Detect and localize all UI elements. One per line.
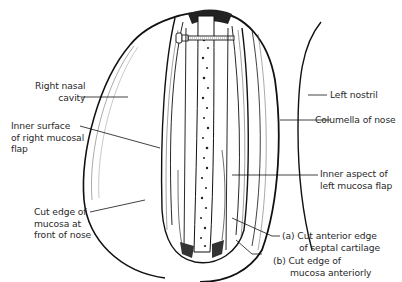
label-left-nostril: Left nostril <box>330 89 378 101</box>
label-inner-surface-right-flap: Inner surface of right mucosal flap <box>11 120 84 155</box>
label-right-nasal-cavity: Right nasal cavity <box>35 80 85 103</box>
label-cut-anterior-edge: (a) Cut anterior edge of septal cartilag… <box>282 230 380 253</box>
label-cut-edge-mucosa: (b) Cut edge of mucosa anteriorly <box>273 255 371 278</box>
columella-outline <box>298 22 321 250</box>
septal-cartilage <box>194 16 214 252</box>
label-cut-edge-front: Cut edge of mucosa at front of nose <box>34 206 91 241</box>
label-columella: Columella of nose <box>315 114 396 126</box>
label-inner-aspect-left-flap: Inner aspect of left mucosa flap <box>320 168 392 191</box>
